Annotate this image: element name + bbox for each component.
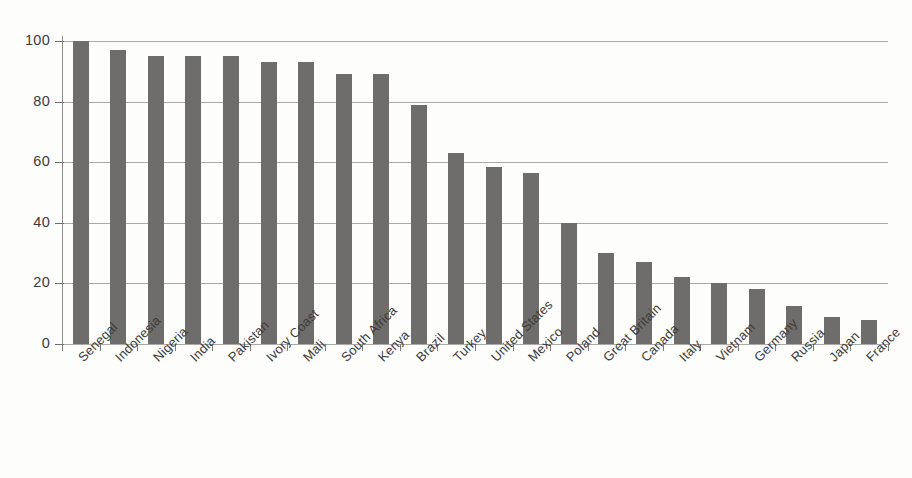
bar[interactable] bbox=[411, 105, 427, 344]
bar[interactable] bbox=[73, 41, 89, 344]
bar[interactable] bbox=[336, 74, 352, 344]
bar[interactable] bbox=[223, 56, 239, 344]
y-tick-label-wrap-20: 20 bbox=[0, 274, 50, 290]
bar[interactable] bbox=[448, 153, 464, 344]
x-tick-mark bbox=[62, 344, 63, 351]
y-tick-label-wrap-60: 60 bbox=[0, 153, 50, 169]
y-tick-label-wrap-0: 0 bbox=[0, 335, 50, 351]
y-tick-label-wrap-100: 100 bbox=[0, 32, 50, 48]
bar[interactable] bbox=[148, 56, 164, 344]
y-tick-label-wrap-40: 40 bbox=[0, 214, 50, 230]
y-tick-label-80: 80 bbox=[6, 93, 50, 109]
bar[interactable] bbox=[561, 223, 577, 344]
bar[interactable] bbox=[598, 253, 614, 344]
bar[interactable] bbox=[486, 167, 502, 344]
y-tick-label-60: 60 bbox=[6, 153, 50, 169]
y-tick-label-40: 40 bbox=[6, 214, 50, 230]
bar[interactable] bbox=[824, 317, 840, 344]
bar[interactable] bbox=[261, 62, 277, 344]
bar-chart: 020406080100 SenegalIndonesiaNigeriaIndi… bbox=[0, 0, 912, 478]
bars-group bbox=[62, 41, 888, 344]
y-tick-label-20: 20 bbox=[6, 274, 50, 290]
y-tick-label-wrap-80: 80 bbox=[0, 93, 50, 109]
y-tick-label-100: 100 bbox=[6, 32, 50, 48]
y-tick-label-0: 0 bbox=[6, 335, 50, 351]
bar[interactable] bbox=[711, 283, 727, 344]
bar[interactable] bbox=[185, 56, 201, 344]
bar[interactable] bbox=[110, 50, 126, 344]
bar[interactable] bbox=[298, 62, 314, 344]
